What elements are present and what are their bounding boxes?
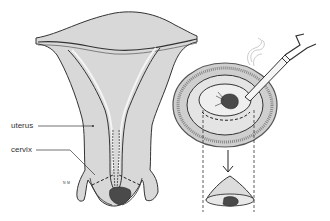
smoke-icon <box>248 38 265 66</box>
instrument-tip <box>285 34 316 60</box>
cone-biopsy-diagram: uterus cervix N M <box>0 0 330 221</box>
arrow-down-icon <box>223 150 233 172</box>
cervix-face-view <box>173 63 277 147</box>
excised-cone-specimen <box>206 176 254 206</box>
diagram-canvas <box>0 0 330 221</box>
surgical-instrument <box>245 34 316 101</box>
artist-initials: N M <box>63 181 70 185</box>
label-uterus: uterus <box>11 122 33 130</box>
label-cervix: cervix <box>11 146 32 154</box>
lesion-specimen <box>223 197 238 207</box>
